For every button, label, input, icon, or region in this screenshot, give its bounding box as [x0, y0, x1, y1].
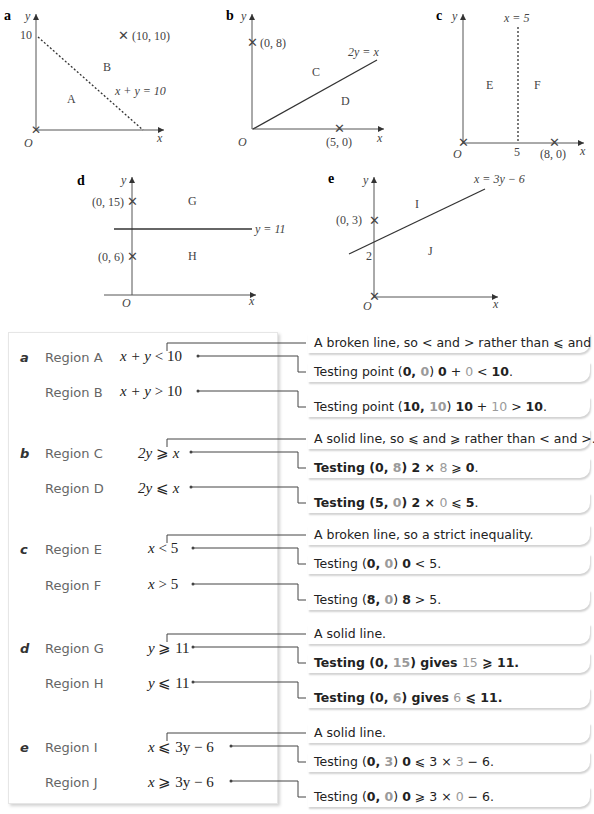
note-e-test-2: Testing (0, 0) 0 ⩾ 3 × 0 − 6.: [308, 787, 590, 807]
note-e-test-1: Testing (0, 3) 0 ⩽ 3 × 3 − 6.: [308, 752, 590, 772]
note-d-test-2: Testing (0, 6) gives 6 ⩽ 11.: [308, 688, 590, 708]
note-b-line: A solid line, so ⩽ and ⩾ rather than < a…: [308, 429, 590, 449]
note-c-line: A broken line, so a strict inequality.: [308, 525, 590, 545]
note-b-test-2: Testing (5, 0) 2 × 0 ⩽ 5.: [308, 493, 590, 513]
note-d-test-1: Testing (0, 15) gives 15 ⩾ 11.: [308, 653, 590, 673]
note-a-test-1: Testing point (0, 0) 0 + 0 < 10.: [308, 362, 590, 382]
note-b-test-1: Testing (0, 8) 2 × 8 ⩾ 0.: [308, 458, 590, 478]
note-a-test-2: Testing point (10, 10) 10 + 10 > 10.: [308, 397, 590, 417]
note-c-test-1: Testing (0, 0) 0 < 5.: [308, 554, 590, 574]
note-a-line: A broken line, so < and > rather than ⩽ …: [308, 333, 590, 353]
note-d-line: A solid line.: [308, 624, 590, 644]
note-e-line: A solid line.: [308, 723, 590, 743]
note-c-test-2: Testing (8, 0) 8 > 5.: [308, 590, 590, 610]
